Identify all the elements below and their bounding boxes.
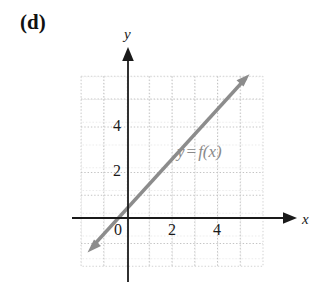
curve-label-fx: f(x) [198, 142, 222, 161]
x-axis-label: x [302, 212, 309, 227]
y-tick-label-4: 4 [109, 118, 125, 134]
y-tick-label-2: 2 [109, 163, 125, 179]
y-axis-arrowhead [122, 47, 134, 61]
figure-panel: (d) [0, 0, 321, 292]
plot-canvas [0, 0, 321, 292]
x-tick-label-0: 0 [110, 222, 126, 238]
curve-equation-label: y=f(x) [177, 143, 222, 160]
curve-label-y: y [177, 142, 185, 161]
y-axis-label: y [124, 27, 131, 42]
x-axis-arrowhead [283, 212, 297, 224]
x-tick-label-4: 4 [209, 222, 225, 238]
curve-label-equals: = [185, 142, 199, 161]
x-tick-label-2: 2 [164, 222, 180, 238]
